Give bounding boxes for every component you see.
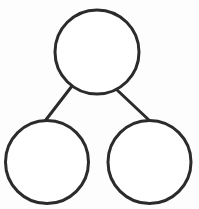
- number-bond-diagram: [0, 0, 199, 209]
- part-circle-right: [108, 121, 191, 204]
- part-circle-left: [6, 121, 89, 204]
- diagram-canvas: [0, 0, 199, 209]
- whole-circle: [55, 10, 139, 94]
- connector-line-left: [45, 86, 72, 121]
- connector-line-right: [116, 89, 150, 121]
